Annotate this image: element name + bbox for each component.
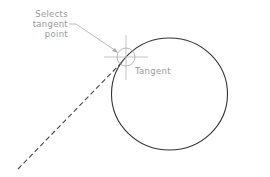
callout-line-1: Selects	[35, 9, 68, 19]
callout-leader-line	[69, 24, 116, 51]
tangent-snap-tooltip: Tangent	[134, 66, 171, 76]
dashed-tangent-line	[18, 60, 124, 169]
circle	[112, 38, 228, 150]
tangent-diagram: Selects tangent point Tangent	[0, 0, 270, 177]
callout-line-3: point	[45, 29, 69, 39]
callout-line-2: tangent	[33, 19, 69, 29]
drawing-area: Selects tangent point Tangent	[0, 0, 270, 177]
